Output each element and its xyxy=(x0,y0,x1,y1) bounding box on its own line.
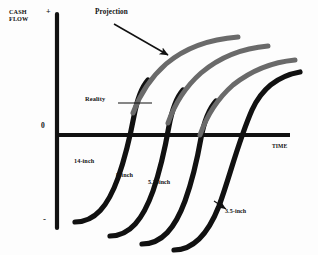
annotation-projection-label: Projection xyxy=(95,9,128,17)
y-axis-title-line2: FLOW xyxy=(9,16,28,23)
curve-label-8inch: 8-inch xyxy=(116,172,133,179)
y-axis-tick-positive: + xyxy=(46,8,51,17)
curve-label-35inch: 3.5-inch xyxy=(225,208,246,214)
annotation-reality-label: Reality xyxy=(85,96,105,103)
cash-flow-diagram: CASH FLOW + 0 - TIME Projection Reality … xyxy=(0,0,318,255)
diagram-canvas xyxy=(0,0,318,255)
y-axis-tick-zero: 0 xyxy=(41,122,45,130)
x-axis-label: TIME xyxy=(272,143,287,149)
reality-curve-35inch xyxy=(174,72,300,250)
projection-arrow xyxy=(114,24,168,55)
y-axis-tick-negative: - xyxy=(43,215,46,225)
y-axis-title: CASH FLOW xyxy=(9,9,28,22)
curve-label-14inch: 14-inch xyxy=(74,158,94,165)
projection-curve-14inch xyxy=(133,37,238,113)
curve-35inch-group xyxy=(174,72,300,250)
curve-label-525inch: 5.25inch xyxy=(148,179,170,185)
